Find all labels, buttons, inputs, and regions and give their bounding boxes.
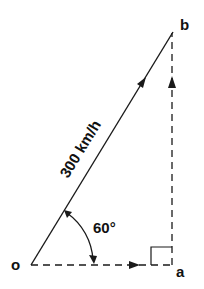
right-angle-marker-icon bbox=[151, 247, 172, 265]
angle-arc-arrowhead-top-icon bbox=[64, 210, 72, 218]
angle-arc-icon bbox=[67, 213, 93, 260]
point-label-a: a bbox=[176, 263, 185, 280]
angle-label: 60° bbox=[93, 219, 116, 236]
vector-oa-arrowhead-icon bbox=[129, 261, 140, 269]
angle-arc-arrowhead-bottom-icon bbox=[89, 255, 97, 264]
velocity-triangle-diagram: o a b 300 km/h 60° bbox=[0, 0, 204, 289]
point-label-o: o bbox=[11, 256, 20, 273]
vector-ab-arrowhead-icon bbox=[168, 76, 176, 88]
point-label-b: b bbox=[180, 16, 189, 33]
speed-label: 300 km/h bbox=[56, 117, 104, 181]
vector-ob-arrowhead-icon bbox=[137, 77, 146, 88]
